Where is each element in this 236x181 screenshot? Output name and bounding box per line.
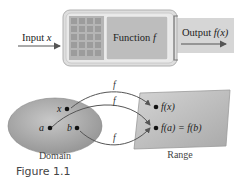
- point-fx: [154, 105, 159, 110]
- domain-label: Domain: [39, 150, 71, 161]
- figure-caption: Figure 1.1: [16, 165, 71, 178]
- range-set: [134, 90, 230, 149]
- arrow-label-3: f: [113, 133, 117, 143]
- input-label: Input x: [22, 32, 52, 43]
- point-a: [48, 126, 53, 131]
- point-fa-fb-label: f(a) = f(b): [161, 122, 202, 134]
- point-b-label: b: [67, 122, 72, 133]
- point-x: [65, 107, 70, 112]
- range-label: Range: [167, 149, 193, 160]
- domain-set: [8, 98, 102, 154]
- function-label: Function f: [113, 32, 158, 43]
- arrow-label-1: f: [113, 80, 117, 90]
- arrow-label-2: f: [113, 96, 117, 106]
- keypad-grid: [69, 16, 104, 60]
- point-x-label: x: [56, 103, 62, 114]
- output-label: Output f(x): [182, 27, 229, 39]
- point-fa-fb: [154, 126, 159, 131]
- function-diagram: Input x Function f Output f(x) f f f x a…: [0, 0, 236, 181]
- point-a-label: a: [39, 122, 44, 133]
- point-b: [75, 126, 80, 131]
- point-fx-label: f(x): [161, 101, 176, 113]
